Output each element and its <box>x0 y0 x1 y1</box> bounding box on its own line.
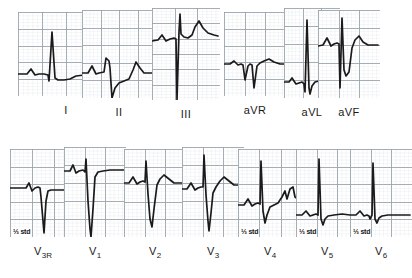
lead-cell-avr: aVR <box>224 0 286 139</box>
ecg-waveform-v6 <box>350 163 410 223</box>
lead-label-v1: V1 <box>64 245 126 260</box>
lead-label-subscript: 4 <box>272 251 276 260</box>
lead-label-subscript: 3 <box>215 251 219 260</box>
ecg-waveform-avr <box>224 59 284 88</box>
ecg-trace-svg-v5 <box>296 149 358 237</box>
calibration-note-v5: ⅓ std <box>298 227 317 236</box>
ecg-trace-svg-avf <box>318 10 380 98</box>
lead-label-text: V <box>264 245 272 257</box>
lead-cell-ii: II <box>82 0 156 139</box>
lead-label-ii: II <box>82 106 156 118</box>
lead-cell-avf: aVF <box>318 0 380 139</box>
lead-cell-v5: ⅓ stdV5 <box>296 139 358 278</box>
lead-cell-v3: V3 <box>182 139 244 278</box>
lead-label-subscript: 2 <box>157 251 161 260</box>
calibration-note-v6: ⅓ std <box>352 227 371 236</box>
lead-label-text: V <box>321 245 329 257</box>
lead-label-text: I <box>64 104 67 116</box>
lead-label-text: aVF <box>338 106 359 118</box>
lead-label-text: V <box>149 245 157 257</box>
lead-label-v3: V3 <box>182 245 244 260</box>
lead-label-v6: V6 <box>350 245 412 260</box>
lead-cell-iii: III <box>152 0 220 139</box>
ecg-panel-v1 <box>64 147 126 237</box>
ecg-trace-svg-iii <box>152 8 220 100</box>
ecg-row-limb-leads: IIIIIIaVRaVLaVF <box>0 0 382 139</box>
ecg-panel-v2 <box>124 149 186 237</box>
ecg-panel-v4: ⅓ std <box>238 149 302 237</box>
ecg-panel-iii <box>152 8 220 100</box>
ecg-trace-svg-avr <box>224 12 286 96</box>
lead-cell-v6: ⅓ stdV6 <box>350 139 412 278</box>
lead-label-text: aVR <box>244 104 267 116</box>
lead-label-text: II <box>116 106 123 118</box>
ecg-trace-svg-v6 <box>350 149 412 237</box>
lead-label-avr: aVR <box>224 104 286 116</box>
lead-label-iii: III <box>152 108 220 120</box>
lead-label-text: V <box>34 245 42 257</box>
ecg-panel-ii <box>82 10 156 98</box>
lead-label-text: III <box>181 108 191 120</box>
ecg-panel-avf <box>318 10 380 98</box>
calibration-note-v3r: ⅓ std <box>12 227 31 236</box>
calibration-note-v4: ⅓ std <box>240 227 259 236</box>
ecg-grid-v2 <box>124 149 186 237</box>
lead-label-v2: V2 <box>124 245 186 260</box>
ecg-grid-avf <box>318 10 380 98</box>
ecg-trace-svg-v4 <box>238 149 302 237</box>
lead-label-subscript: 6 <box>383 251 387 260</box>
ecg-waveform-v5 <box>296 159 356 225</box>
lead-label-subscript: 3R <box>42 251 52 260</box>
ecg-row-precordial-leads: ⅓ stdV3RV1V2V3⅓ stdV4⅓ stdV5⅓ stdV6 <box>0 139 382 278</box>
lead-cell-v2: V2 <box>124 139 186 278</box>
ecg-panel-v5: ⅓ std <box>296 149 358 237</box>
ecg-trace-svg-v1 <box>64 147 126 237</box>
ecg-trace-svg-v3 <box>182 147 244 237</box>
lead-label-text: V <box>375 245 383 257</box>
lead-cell-v4: ⅓ stdV4 <box>238 139 302 278</box>
ecg-grid-v5 <box>296 149 358 237</box>
lead-label-avf: aVF <box>318 106 380 118</box>
ecg-panel-v3 <box>182 147 244 237</box>
lead-label-text: V <box>207 245 215 257</box>
ecg-grid-v1 <box>64 147 126 237</box>
ecg-waveform-v4 <box>238 161 301 223</box>
lead-label-subscript: 5 <box>329 251 333 260</box>
lead-label-subscript: 1 <box>97 251 101 260</box>
lead-label-v5: V5 <box>296 245 358 260</box>
lead-label-text: V <box>89 245 97 257</box>
ecg-waveform-ii <box>82 58 152 98</box>
ecg-grid-ii <box>82 10 156 98</box>
lead-label-v4: V4 <box>238 245 302 260</box>
ecg-panel-avr <box>224 12 286 96</box>
ecg-trace-svg-v2 <box>124 149 186 237</box>
ecg-grid-v4 <box>238 149 302 237</box>
ecg-trace-svg-ii <box>82 10 156 98</box>
ecg-grid-iii <box>152 8 220 100</box>
ecg-waveform-v2 <box>124 161 184 227</box>
ecg-grid-v6 <box>350 149 412 237</box>
ecg-panel-v6: ⅓ std <box>350 149 412 237</box>
lead-cell-v1: V1 <box>64 139 126 278</box>
